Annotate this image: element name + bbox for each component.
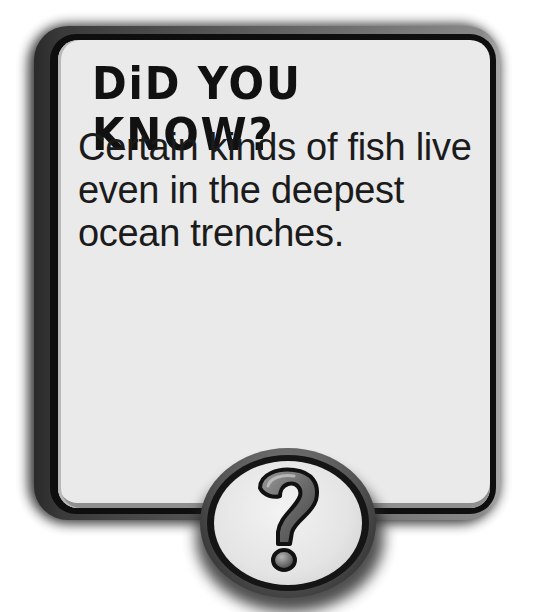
card-body-text: Certain kinds of fish live even in the d… <box>78 126 498 255</box>
body-line-2: even in the deepest <box>78 169 498 212</box>
body-line-3: ocean trenches. <box>78 212 498 255</box>
question-mark-icon <box>250 466 326 576</box>
body-line-1: Certain kinds of fish live <box>78 126 498 169</box>
